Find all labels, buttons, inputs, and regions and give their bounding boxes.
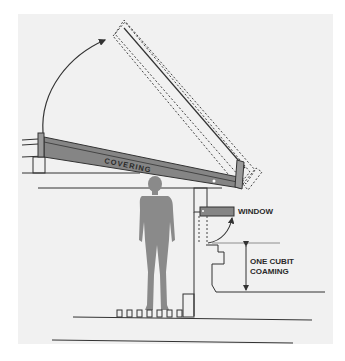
diagram-background	[18, 14, 333, 344]
window-label: WINDOW	[238, 207, 274, 216]
window-pin	[202, 210, 204, 212]
coaming-label-line1: ONE CUBIT	[250, 257, 294, 266]
right-hinge-post	[235, 160, 244, 189]
left-post	[38, 133, 44, 157]
coaming-label-line2: COAMING	[250, 267, 289, 276]
hinge-pin	[213, 180, 216, 183]
window-panel	[200, 207, 234, 216]
ark-covering-diagram: COVERING WINDOW ONE CUBIT COAMING	[0, 0, 345, 361]
